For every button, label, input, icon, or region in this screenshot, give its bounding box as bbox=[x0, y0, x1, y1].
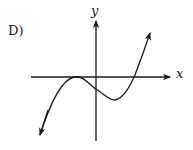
graph-canvas bbox=[0, 0, 193, 150]
curve-left-arrow bbox=[40, 110, 48, 135]
cubic-curve bbox=[40, 33, 150, 135]
